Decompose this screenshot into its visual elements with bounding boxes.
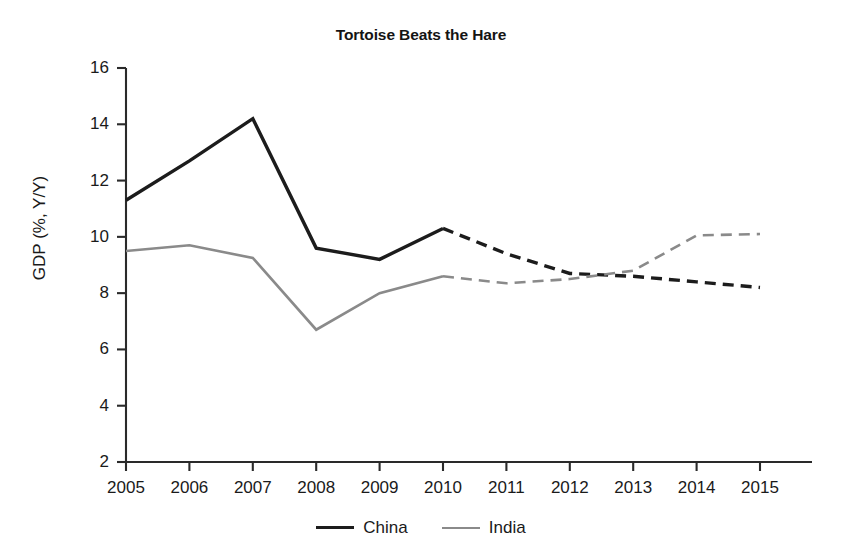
legend-item-india[interactable]: India (442, 519, 526, 536)
plot-area (0, 0, 842, 559)
x-axis-ticks (126, 462, 760, 471)
series-line-china-forecast (443, 228, 760, 287)
axis-lines (117, 68, 812, 471)
data-series-group (126, 119, 760, 330)
y-axis-ticks (117, 68, 126, 462)
legend-item-china[interactable]: China (316, 519, 407, 536)
legend-label-china: China (363, 519, 407, 536)
chart-figure: Tortoise Beats the Hare GDP (%, Y/Y) 246… (0, 0, 842, 559)
legend-line-swatch-china (316, 526, 354, 529)
legend-line-swatch-india (442, 527, 480, 529)
series-line-china-actual (126, 119, 443, 260)
series-line-india-actual (126, 245, 443, 329)
chart-legend: China India (0, 519, 842, 536)
legend-label-india: India (489, 519, 526, 536)
